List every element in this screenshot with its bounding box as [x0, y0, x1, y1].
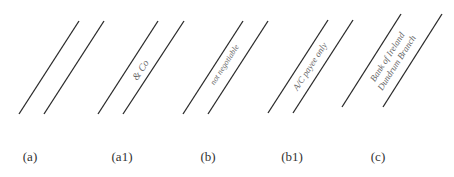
crossing-line — [123, 21, 184, 114]
crossing-label-a: (a) — [23, 149, 37, 165]
crossing-label-a1: (a1) — [112, 149, 133, 165]
crossing-line — [183, 21, 243, 114]
crossing-label-c: (c) — [371, 149, 385, 165]
crossing-label-b: (b) — [200, 149, 215, 165]
crossing-line — [44, 21, 104, 114]
crossing-line — [268, 20, 328, 113]
crossing-label-b1: (b1) — [281, 149, 303, 165]
crossing-line — [293, 20, 353, 113]
crossing-line — [19, 21, 79, 114]
crossing-a — [19, 21, 104, 114]
